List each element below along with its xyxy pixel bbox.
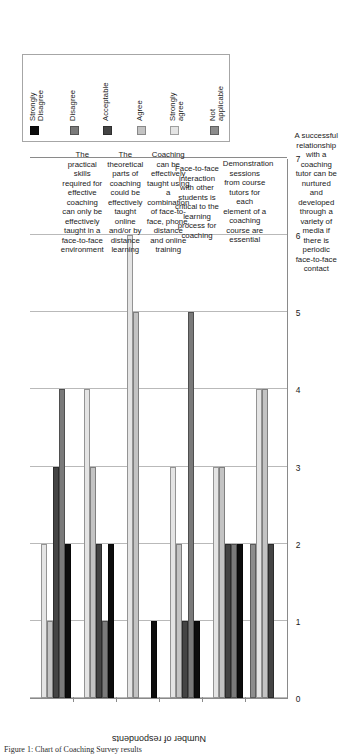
y-axis-title: Number of respondents [30,732,288,746]
legend-label: Strongly agree [169,92,185,121]
tick-label-3: 3 [288,463,308,473]
legend-swatch [70,126,79,135]
figure-caption: Figure 1: Chart of Coaching Survey resul… [4,745,142,754]
legend-label: Agree [136,100,144,121]
legend-swatch [103,126,112,135]
tick-label-4: 4 [288,385,308,395]
legend-entry: Not applicable [209,60,225,135]
legend-label: Strongly Disagree [29,90,45,121]
legend-swatch [170,126,179,135]
bar [194,621,200,698]
bar-row [280,159,286,698]
legend-swatch [30,126,39,135]
tick-label-1: 1 [288,617,308,627]
chart-legend: Strongly DisagreeDisagreeAcceptableAgree… [22,54,230,142]
y-axis-title-text: Number of respondents [112,734,206,744]
bar [151,621,157,698]
category-label: A successful relationship with a coachin… [294,131,338,274]
tick-label-2: 2 [288,540,308,550]
tick-label-0: 0 [288,694,308,704]
legend-swatch [210,126,219,135]
category-label: Demonstration sessions from course tutor… [222,159,266,245]
legend-label: Acceptable [102,82,110,121]
bar [237,544,243,698]
legend-entry: Disagree [69,60,79,135]
legend-entry: Acceptable [102,60,112,135]
legend-swatch [137,126,146,135]
legend-label: Disagree [69,90,77,121]
legend-entry: Strongly Disagree [29,60,45,135]
legend-entry: Strongly agree [169,60,185,135]
bar [65,544,71,698]
category-label: The practical skills required for effect… [60,150,104,255]
tick-label-5: 5 [288,308,308,318]
legend-label: Not applicable [209,86,225,121]
legend-entry: Agree [136,60,146,135]
chart-figure: Number of respondents 01234567 The pract… [0,0,340,754]
category-label: Face-to-face interaction with other stud… [175,164,219,240]
bar [108,544,114,698]
category-label: The theoretical parts of coaching could … [103,150,147,255]
chart-canvas: Number of respondents 01234567 The pract… [0,0,340,754]
